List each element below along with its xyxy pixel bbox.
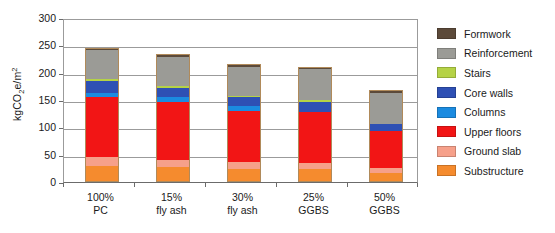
bar-segment-formwork: [85, 48, 119, 51]
x-axis-label-0: 100%PC: [62, 191, 140, 217]
y-axis-tick-label: 150: [26, 94, 56, 106]
y-axis-title-mid: e/m: [11, 72, 23, 90]
y-axis-tick-label: 100: [26, 121, 56, 133]
x-axis-label-line2: GGBS: [346, 204, 424, 217]
legend-swatch-icon: [437, 165, 456, 176]
legend-swatch-icon: [437, 126, 456, 137]
bar-segment-upper-floors: [227, 111, 261, 162]
bar-segment-stairs: [85, 79, 119, 81]
x-axis-label-line2: GGBS: [275, 204, 353, 217]
bar-segment-reinforcement: [369, 93, 403, 124]
bar-segment-ground-slab: [85, 157, 119, 165]
bar-100-pc[interactable]: [85, 48, 119, 182]
bar-segment-reinforcement: [298, 69, 332, 100]
chart-legend: FormworkReinforcementStairsCore wallsCol…: [437, 24, 555, 181]
bar-30-fly-ash[interactable]: [227, 64, 261, 182]
bar-segment-core-walls: [85, 81, 119, 93]
x-axis-tick-mark: [205, 183, 206, 187]
bar-segment-substructure: [227, 169, 261, 182]
bar-segment-substructure: [85, 166, 119, 182]
legend-item-core-walls[interactable]: Core walls: [437, 83, 555, 103]
bar-segment-columns: [227, 106, 261, 111]
stacked-bar-chart: kgCO2e/m2 050100150200250300 100%PC15%fl…: [0, 0, 555, 233]
legend-label: Reinforcement: [464, 47, 532, 59]
legend-label: Columns: [464, 106, 505, 118]
bar-segment-reinforcement: [85, 50, 119, 79]
legend-label: Ground slab: [464, 145, 521, 157]
legend-swatch-icon: [437, 107, 456, 118]
bar-segment-reinforcement: [227, 67, 261, 96]
bar-segment-columns: [156, 97, 190, 102]
legend-swatch-icon: [437, 28, 456, 39]
legend-label: Core walls: [464, 87, 513, 99]
legend-item-upper-floors[interactable]: Upper floors: [437, 122, 555, 142]
bar-segment-upper-floors: [85, 97, 119, 158]
bar-segment-core-walls: [369, 124, 403, 131]
bar-segment-upper-floors: [298, 112, 332, 163]
x-axis-label-3: 25%GGBS: [275, 191, 353, 217]
bar-segment-stairs: [156, 86, 190, 88]
bar-segment-core-walls: [156, 88, 190, 97]
bar-segment-substructure: [156, 167, 190, 182]
x-axis-label-line2: fly ash: [204, 204, 282, 217]
y-axis-tick-label: 50: [26, 149, 56, 161]
x-axis-label-line1: 100%: [62, 191, 140, 204]
bar-segment-ground-slab: [156, 160, 190, 168]
bar-segment-ground-slab: [298, 163, 332, 170]
bar-segment-ground-slab: [227, 162, 261, 169]
y-axis-tick-label: 250: [26, 39, 56, 51]
bar-segment-core-walls: [298, 102, 332, 112]
bar-segment-formwork: [369, 90, 403, 93]
legend-item-stairs[interactable]: Stairs: [437, 63, 555, 83]
bar-50-ggbs[interactable]: [369, 90, 403, 182]
legend-label: Substructure: [464, 165, 524, 177]
bar-segment-stairs: [227, 96, 261, 98]
legend-item-formwork[interactable]: Formwork: [437, 24, 555, 44]
y-axis-title: kgCO2e/m2: [10, 39, 27, 149]
bar-segment-formwork: [156, 54, 190, 57]
bar-segment-reinforcement: [156, 57, 190, 86]
legend-label: Upper floors: [464, 126, 521, 138]
y-axis-tick-label: 200: [26, 67, 56, 79]
x-axis-tick-mark: [134, 183, 135, 187]
legend-label: Stairs: [464, 67, 491, 79]
bar-segment-core-walls: [227, 97, 261, 106]
legend-swatch-icon: [437, 87, 456, 98]
y-axis-tick-label: 0: [26, 176, 56, 188]
y-axis-title-sub: 2: [17, 90, 26, 94]
x-axis-label-line1: 15%: [133, 191, 211, 204]
bar-25-ggbs[interactable]: [298, 67, 332, 182]
bar-segment-substructure: [298, 169, 332, 182]
legend-swatch-icon: [437, 48, 456, 59]
y-axis-title-main: kgCO: [11, 94, 23, 121]
y-axis-title-sup: 2: [10, 67, 19, 71]
legend-item-columns[interactable]: Columns: [437, 102, 555, 122]
bar-segment-upper-floors: [156, 102, 190, 159]
legend-label: Formwork: [464, 28, 511, 40]
x-axis-tick-mark: [347, 183, 348, 187]
x-axis-label-4: 50%GGBS: [346, 191, 424, 217]
bar-segment-ground-slab: [369, 168, 403, 173]
x-axis-tick-mark: [417, 183, 418, 187]
legend-item-ground-slab[interactable]: Ground slab: [437, 142, 555, 162]
legend-swatch-icon: [437, 67, 456, 78]
bar-segment-upper-floors: [369, 131, 403, 169]
legend-swatch-icon: [437, 146, 456, 157]
x-axis-label-line1: 50%: [346, 191, 424, 204]
x-axis-label-line2: PC: [62, 204, 140, 217]
x-axis-label-line1: 25%: [275, 191, 353, 204]
legend-item-reinforcement[interactable]: Reinforcement: [437, 44, 555, 64]
x-axis-label-1: 15%fly ash: [133, 191, 211, 217]
bar-segment-columns: [85, 93, 119, 97]
bar-15-fly-ash[interactable]: [156, 54, 190, 182]
x-axis-label-2: 30%fly ash: [204, 191, 282, 217]
x-axis-label-line2: fly ash: [133, 204, 211, 217]
bar-segment-stairs: [298, 100, 332, 102]
bar-segment-substructure: [369, 173, 403, 182]
x-axis-tick-mark: [63, 183, 64, 187]
plot-area: [63, 19, 418, 183]
x-axis-tick-mark: [276, 183, 277, 187]
y-axis-tick-label: 300: [26, 12, 56, 24]
legend-item-substructure[interactable]: Substructure: [437, 161, 555, 181]
x-axis-label-line1: 30%: [204, 191, 282, 204]
